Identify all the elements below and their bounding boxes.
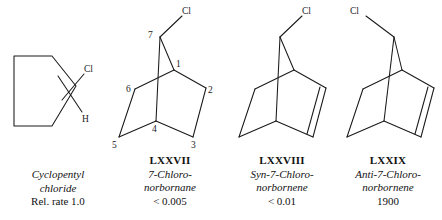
caption-name-line2: norbornene — [226, 181, 338, 195]
caption-rate: < 0.005 — [112, 195, 228, 209]
bond-c7-c1 — [160, 37, 174, 70]
structure-cyclopentyl-chloride: Cl H — [0, 40, 110, 145]
structure-anti-7-chloronorbornene: Cl — [336, 4, 442, 150]
position-number-2: 2 — [208, 85, 213, 95]
caption-anti-7-chloronorbornene: LXXIX Anti-7-Chloro- norbornene 1900 — [334, 154, 442, 208]
bond-c7-cl — [366, 16, 394, 37]
bond-c5-c4 — [119, 121, 156, 137]
position-number-5: 5 — [112, 140, 117, 150]
atom-label-cl: Cl — [84, 64, 93, 74]
bond-c6-c5 — [347, 89, 363, 137]
caption-syn-7-chloronorbornene: LXXVIII Syn-7-Chloro- norbornene < 0.01 — [226, 154, 338, 208]
bond-c2-c3-double-a — [421, 88, 434, 137]
bond-c6-c5 — [239, 89, 255, 137]
bond-c3-c4 — [156, 121, 193, 137]
position-number-6: 6 — [126, 84, 131, 94]
position-number-4: 4 — [152, 124, 157, 134]
caption-name-line2: chloride — [0, 182, 116, 196]
bond-c7-c4 — [384, 37, 394, 121]
bond-c1-c6 — [363, 70, 402, 89]
atom-label-cl: Cl — [302, 6, 311, 16]
caption-roman-numeral: LXXVII — [112, 154, 228, 168]
caption-rate: Rel. rate 1.0 — [0, 195, 116, 209]
cyclopentane-ring — [14, 56, 76, 126]
position-number-1: 1 — [176, 59, 181, 69]
bond-c2-c3-double-b — [307, 87, 320, 134]
bond-c7-cl — [160, 16, 182, 37]
caption-7-chloronorbornane: LXXVII 7-Chloro- norbornane < 0.005 — [112, 154, 228, 208]
bond-c2-c3-double-a — [313, 88, 326, 137]
figure-canvas: Cl H Cl 7 1 2 3 4 5 6 — [0, 0, 442, 220]
structure-syn-7-chloronorbornene: Cl — [228, 4, 336, 150]
bond-c1-c6 — [135, 70, 174, 89]
caption-cyclopentyl-chloride: Cyclopentyl chloride Rel. rate 1.0 — [0, 168, 116, 209]
position-number-3: 3 — [191, 140, 196, 150]
caption-roman-numeral: LXXVIII — [226, 154, 338, 168]
bond-c2-c3-double-b — [415, 87, 428, 134]
atom-label-cl: Cl — [350, 6, 359, 16]
atom-label-cl: Cl — [182, 6, 191, 16]
bond-c1-c2 — [294, 70, 326, 88]
caption-name-line1: 7-Chloro- — [112, 168, 228, 182]
caption-name-line1: Syn-7-Chloro- — [226, 168, 338, 182]
bond-c5-c4 — [239, 121, 276, 137]
caption-roman-numeral: LXXIX — [334, 154, 442, 168]
bond-c1-c2 — [402, 70, 434, 88]
bond-c1-c2 — [174, 70, 206, 88]
caption-name-line2: norbornane — [112, 181, 228, 195]
bond-c3-c4 — [276, 121, 313, 137]
bond-c7-c1 — [280, 37, 294, 70]
bond-c3-c4 — [384, 121, 421, 137]
caption-rate: 1900 — [334, 195, 442, 209]
bond-c2-c3 — [193, 88, 206, 137]
caption-name-line1: Anti-7-Chloro- — [334, 168, 442, 182]
caption-rate: < 0.01 — [226, 195, 338, 209]
bond-c6-c5 — [119, 89, 135, 137]
structure-7-chloronorbornane: Cl 7 1 2 3 4 5 6 — [108, 4, 226, 150]
caption-name-line2: norbornene — [334, 181, 442, 195]
bond-c7-c1 — [394, 37, 402, 70]
bond-c7-cl — [280, 16, 302, 37]
bond-c1-c6 — [255, 70, 294, 89]
atom-label-h: H — [82, 114, 89, 124]
caption-name-line1: Cyclopentyl — [0, 168, 116, 182]
bond-c5-c4 — [347, 121, 384, 137]
position-number-7: 7 — [148, 30, 153, 40]
